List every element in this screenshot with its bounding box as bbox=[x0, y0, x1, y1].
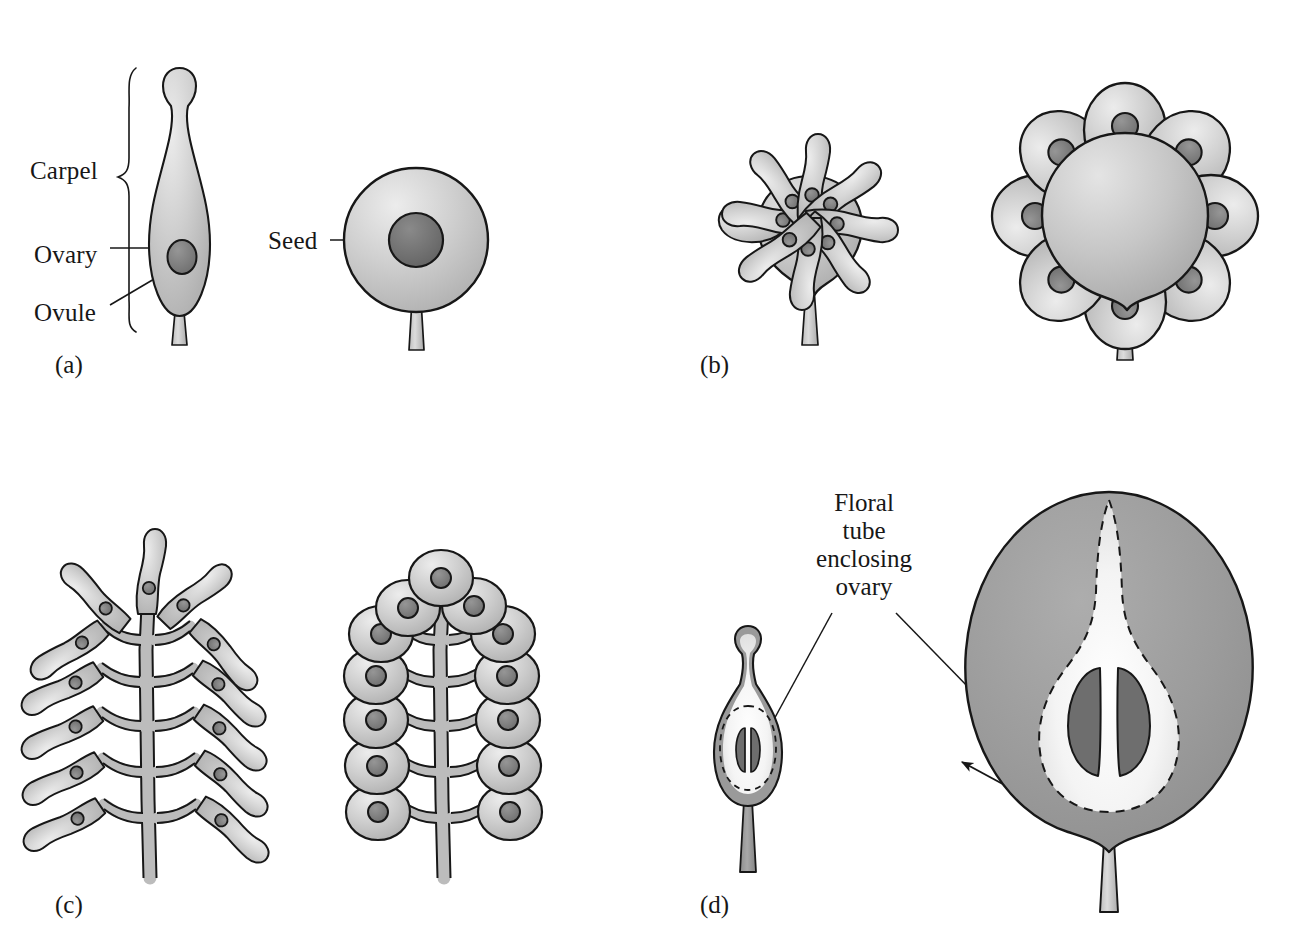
botanical-figure: Carpel Ovary Ovule Seed Floral tube encl… bbox=[0, 0, 1305, 928]
panel-c-fruit-cluster bbox=[344, 550, 542, 878]
carpel-c-apex bbox=[137, 529, 167, 614]
flower-d-stalk bbox=[740, 800, 756, 872]
seed-c bbox=[498, 710, 518, 730]
label-carpel: Carpel bbox=[30, 158, 98, 183]
label-ovule: Ovule bbox=[34, 300, 96, 325]
callout-line-4: ovary bbox=[764, 573, 964, 601]
axis-c2 bbox=[434, 608, 451, 878]
seed-a bbox=[389, 213, 443, 267]
label-floral-tube-enclosing-ovary: Floral tube enclosing ovary bbox=[764, 489, 964, 601]
panel-d-pome bbox=[965, 492, 1252, 912]
callout-line-1: Floral bbox=[764, 489, 964, 517]
seed-c bbox=[431, 568, 451, 588]
seed-c bbox=[398, 598, 418, 618]
label-ovary: Ovary bbox=[34, 242, 97, 267]
seed-c bbox=[368, 802, 388, 822]
ovule-a bbox=[168, 240, 197, 274]
seed-c bbox=[497, 666, 517, 686]
panel-a-artwork bbox=[110, 68, 488, 350]
callout-line-2: tube bbox=[764, 517, 964, 545]
label-seed: Seed bbox=[268, 228, 317, 253]
panel-b-artwork bbox=[719, 83, 1258, 360]
panel-label-a: (a) bbox=[55, 352, 83, 377]
ovule-c bbox=[143, 582, 155, 594]
carpel-brace bbox=[118, 68, 136, 332]
panel-c-artwork bbox=[17, 529, 542, 878]
floral-tube-leader-left bbox=[766, 613, 832, 734]
seed-c bbox=[500, 802, 520, 822]
axis-c bbox=[140, 605, 157, 878]
ovary-cavity-small bbox=[723, 634, 773, 794]
panel-label-c: (c) bbox=[55, 892, 83, 917]
panel-label-b: (b) bbox=[700, 352, 729, 377]
seed-c bbox=[366, 710, 386, 730]
callout-line-3: enclosing bbox=[764, 545, 964, 573]
seed-c bbox=[366, 666, 386, 686]
panel-c-inflorescence bbox=[17, 529, 277, 878]
carpel-a-body bbox=[149, 68, 210, 316]
seed-c bbox=[367, 756, 387, 776]
panel-d-flower bbox=[714, 626, 782, 872]
fruitlet-c-apex bbox=[409, 550, 473, 606]
panel-b-flower bbox=[719, 134, 898, 345]
panel-label-d: (d) bbox=[700, 892, 729, 917]
seed-c bbox=[499, 756, 519, 776]
panel-b-aggregate-fruit bbox=[992, 83, 1258, 360]
figure-artwork bbox=[0, 0, 1305, 928]
seed-c bbox=[464, 596, 484, 616]
